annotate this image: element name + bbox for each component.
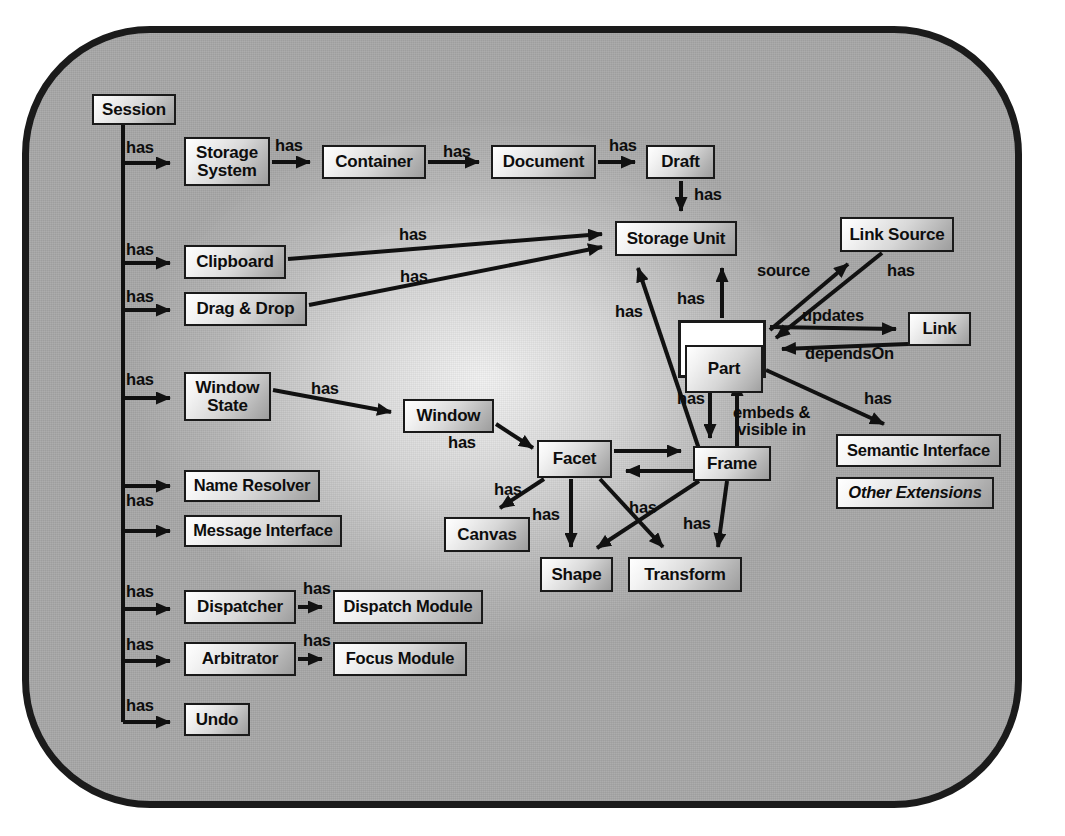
edge-label-container-document: has xyxy=(443,143,471,160)
node-container[interactable]: Container xyxy=(322,145,426,179)
node-focus-module[interactable]: Focus Module xyxy=(333,642,467,676)
edge-label-link-source-part: has xyxy=(887,262,915,279)
node-arbitrator[interactable]: Arbitrator xyxy=(184,642,296,676)
node-session[interactable]: Session xyxy=(92,94,176,125)
node-dispatcher[interactable]: Dispatcher xyxy=(184,590,296,624)
node-part[interactable]: Part xyxy=(678,320,766,378)
edge-label-dispatcher-dispatch-module: has xyxy=(303,580,331,597)
edge-label-part-link: updates xyxy=(802,307,864,324)
edge-label-session-drag-and-drop: has xyxy=(126,288,154,305)
node-other-extensions[interactable]: Other Extensions xyxy=(836,477,994,509)
node-drag-and-drop[interactable]: Drag & Drop xyxy=(184,292,307,326)
edge-label-session-clipboard: has xyxy=(126,241,154,258)
edge-label-facet-shape: has xyxy=(532,506,560,523)
edge-label-session-arbitrator: has xyxy=(126,636,154,653)
edge-label-frame-transform: has xyxy=(683,515,711,532)
edge-label-part-link-source: source xyxy=(757,262,810,279)
edge-label-session-undo: has xyxy=(126,697,154,714)
node-shape[interactable]: Shape xyxy=(540,557,613,592)
node-message-interface[interactable]: Message Interface xyxy=(184,515,342,547)
diagram-page: Session Storage System Container Documen… xyxy=(0,0,1065,836)
edge-label-session-window-state: has xyxy=(126,371,154,388)
diagram-frame xyxy=(22,26,1022,808)
node-undo[interactable]: Undo xyxy=(184,703,250,736)
node-clipboard[interactable]: Clipboard xyxy=(184,245,286,279)
edge-label-drag-and-drop-storage-unit: has xyxy=(400,268,428,285)
edge-label-session-dispatcher: has xyxy=(126,583,154,600)
node-frame[interactable]: Frame xyxy=(693,446,771,481)
node-link-source[interactable]: Link Source xyxy=(840,217,954,252)
edge-label-arbitrator-focus-module: has xyxy=(303,632,331,649)
node-canvas[interactable]: Canvas xyxy=(444,517,530,552)
node-name-resolver[interactable]: Name Resolver xyxy=(184,470,320,502)
node-facet[interactable]: Facet xyxy=(537,440,612,478)
node-storage-unit[interactable]: Storage Unit xyxy=(615,221,737,256)
edge-label-storage-system-container: has xyxy=(275,137,303,154)
edge-label-session-message-interface: has xyxy=(126,492,154,509)
edge-label-frame-storage-unit: has xyxy=(615,303,643,320)
node-link[interactable]: Link xyxy=(908,312,971,346)
edge-label-facet-transform: has xyxy=(629,499,657,516)
edge-label-document-draft: has xyxy=(609,137,637,154)
node-transform[interactable]: Transform xyxy=(628,557,742,592)
node-window-state[interactable]: Window State xyxy=(184,372,271,421)
edge-label-window-state-window: has xyxy=(311,380,339,397)
node-part-label: Part xyxy=(685,345,763,393)
node-document[interactable]: Document xyxy=(491,145,596,179)
edge-label-part-storage-unit: has xyxy=(677,290,705,307)
node-window[interactable]: Window xyxy=(403,399,494,433)
edge-label-facet-canvas: has xyxy=(494,481,522,498)
edge-label-part-frame: has xyxy=(677,390,705,407)
edge-label-clipboard-storage-unit: has xyxy=(399,226,427,243)
edge-label-session-storage-system: has xyxy=(126,139,154,156)
edge-label-part-semantic-interface: has xyxy=(864,390,892,407)
node-dispatch-module[interactable]: Dispatch Module xyxy=(333,590,483,624)
edge-label-draft-storage-unit: has xyxy=(694,186,722,203)
node-storage-system[interactable]: Storage System xyxy=(184,137,270,186)
edge-label-window-facet: has xyxy=(448,434,476,451)
edge-label-frame-part: embeds & visible in xyxy=(733,404,810,439)
edge-label-link-part: dependsOn xyxy=(805,345,894,362)
node-semantic-interface[interactable]: Semantic Interface xyxy=(836,434,1001,467)
node-draft[interactable]: Draft xyxy=(646,145,715,179)
